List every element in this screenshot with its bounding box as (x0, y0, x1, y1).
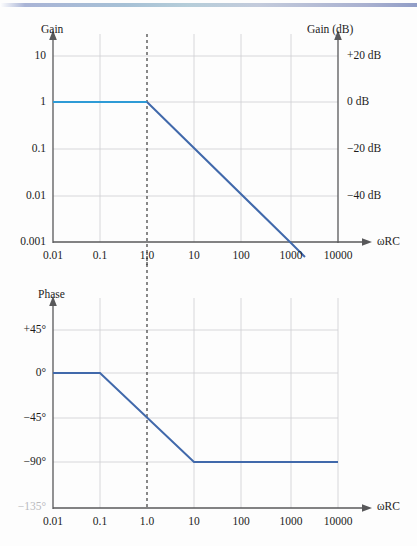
phase-y-axis-title: Phase (38, 289, 65, 301)
gain-y2tick-minus40: −40 dB (347, 190, 381, 202)
gain-ytick-0.001: 0.001 (4, 236, 46, 248)
gain-series-rolloff (147, 102, 305, 257)
gain-xtick-10000: 10000 (320, 250, 356, 262)
phase-ytick-plus45: +45° (6, 324, 46, 336)
gain-ytick-0.01: 0.01 (10, 190, 46, 202)
phase-xtick-0.01: 0.01 (38, 516, 68, 528)
gain-y2-axis-title: Gain (dB) (307, 24, 353, 36)
gain-xtick-1000: 1000 (276, 250, 306, 262)
gain-xtick-0.1: 0.1 (87, 250, 113, 262)
figure-page: Gain Gain (dB) ωRC 10 1 0.1 0.01 0.001 +… (0, 0, 417, 546)
phase-xtick-100: 100 (228, 516, 254, 528)
gain-x-axis-title: ωRC (377, 236, 400, 248)
phase-x-axis-title: ωRC (377, 501, 400, 513)
gain-x-axis-arrow-icon (362, 238, 372, 246)
gain-xtick-100: 100 (228, 250, 254, 262)
phase-x-axis-arrow-icon (362, 504, 372, 512)
phase-xtick-10: 10 (181, 516, 207, 528)
gain-xtick-0.01: 0.01 (38, 250, 68, 262)
gain-y2tick-plus20: +20 dB (347, 50, 381, 62)
phase-xtick-0.1: 0.1 (87, 516, 113, 528)
phase-xtick-1000: 1000 (276, 516, 306, 528)
gain-xtick-10: 10 (181, 250, 207, 262)
phase-ytick-minus135: −135° (2, 501, 46, 513)
phase-bode-plot (0, 270, 417, 546)
gain-y2tick-minus20: −20 dB (347, 143, 381, 155)
gain-ytick-10: 10 (10, 50, 46, 62)
phase-xtick-10000: 10000 (320, 516, 356, 528)
phase-series-asymptote (53, 373, 338, 462)
gain-y2tick-0: 0 dB (347, 96, 369, 108)
gain-ytick-1: 1 (10, 96, 46, 108)
phase-ytick-0: 0° (6, 367, 46, 379)
phase-xtick-1.0: 1.0 (134, 516, 160, 528)
phase-ytick-minus45: −45° (6, 412, 46, 424)
gain-y-axis-title: Gain (41, 24, 63, 36)
phase-ytick-minus90: −90° (6, 456, 46, 468)
gain-ytick-0.1: 0.1 (10, 143, 46, 155)
gain-bode-plot (0, 0, 417, 270)
